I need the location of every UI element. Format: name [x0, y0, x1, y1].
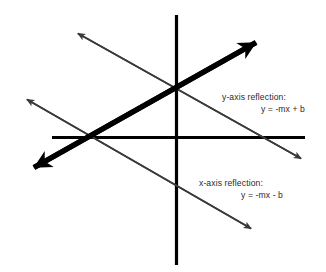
reflection-diagram	[0, 0, 326, 272]
x-axis-reflection-label: x-axis reflection: y = -mx - b	[199, 177, 284, 201]
x-axis-reflection-line-tail	[27, 100, 251, 229]
x-axis-reflection-equation: y = -mx - b	[199, 189, 284, 201]
y-axis-reflection-equation: y = -mx + b	[222, 103, 306, 115]
y-axis-reflection-label: y-axis reflection: y = -mx + b	[222, 91, 306, 115]
y-axis-reflection-heading: y-axis reflection:	[222, 91, 306, 103]
x-axis-reflection-heading: x-axis reflection:	[199, 177, 284, 189]
figure-canvas: y-axis reflection: y = -mx + b x-axis re…	[0, 0, 326, 272]
